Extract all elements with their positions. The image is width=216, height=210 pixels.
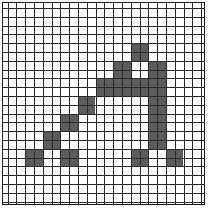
grid-line-vertical xyxy=(184,3,185,204)
grid-line-horizontal xyxy=(3,166,204,167)
grid-line-vertical xyxy=(78,3,79,204)
grid-line-horizontal xyxy=(3,122,204,123)
grid-line-vertical xyxy=(113,3,114,204)
grid-line-vertical xyxy=(34,3,35,204)
grid-line-horizontal xyxy=(3,131,204,132)
grid-line-horizontal xyxy=(3,114,204,115)
grid-line-vertical xyxy=(69,3,70,204)
grid-line-vertical xyxy=(25,3,26,204)
grid-line-vertical xyxy=(96,3,97,204)
grid-line-horizontal xyxy=(3,78,204,79)
pixel-grid xyxy=(2,2,205,205)
grid-line-vertical xyxy=(131,3,132,204)
grid-line-horizontal xyxy=(3,184,204,185)
grid-line-horizontal xyxy=(3,149,204,150)
grid-line-vertical xyxy=(148,3,149,204)
grid-line-vertical xyxy=(166,3,167,204)
grid-line-horizontal xyxy=(3,34,204,35)
grid-line-vertical xyxy=(192,3,193,204)
grid-line-vertical xyxy=(43,3,44,204)
grid-line-horizontal xyxy=(3,96,204,97)
grid-line-horizontal xyxy=(3,87,204,88)
grid-line-vertical xyxy=(87,3,88,204)
grid-line-horizontal xyxy=(3,202,204,203)
grid-line-vertical xyxy=(104,3,105,204)
grid-line-horizontal xyxy=(3,43,204,44)
grid-line-horizontal xyxy=(3,26,204,27)
grid-line-horizontal xyxy=(3,52,204,53)
grid-line-vertical xyxy=(201,3,202,204)
grid-line-horizontal xyxy=(3,17,204,18)
grid-line-horizontal xyxy=(3,105,204,106)
grid-line-horizontal xyxy=(3,70,204,71)
grid-line-horizontal xyxy=(3,193,204,194)
grid-line-horizontal xyxy=(3,8,204,9)
grid-line-vertical xyxy=(140,3,141,204)
grid-line-vertical xyxy=(122,3,123,204)
grid-line-vertical xyxy=(60,3,61,204)
grid-line-horizontal xyxy=(3,61,204,62)
grid-line-vertical xyxy=(52,3,53,204)
grid-line-vertical xyxy=(175,3,176,204)
grid-line-horizontal xyxy=(3,140,204,141)
grid-line-horizontal xyxy=(3,175,204,176)
grid-line-vertical xyxy=(157,3,158,204)
grid-line-horizontal xyxy=(3,158,204,159)
grid-line-vertical xyxy=(8,3,9,204)
grid-line-vertical xyxy=(16,3,17,204)
